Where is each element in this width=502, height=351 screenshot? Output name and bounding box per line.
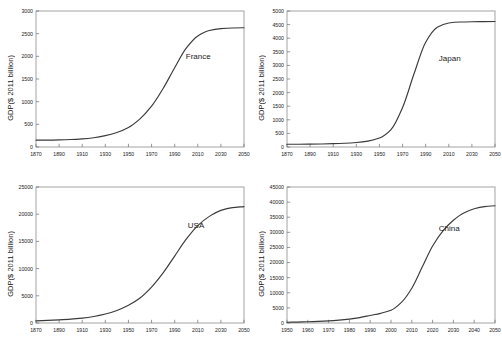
y-tick-label: 500 — [24, 121, 33, 127]
y-tick-label: 20000 — [19, 211, 34, 217]
x-tick-label: 2050 — [489, 151, 501, 157]
x-tick-label: 1950 — [123, 327, 135, 333]
y-tick-label: 30000 — [270, 229, 285, 235]
y-tick-label: 15000 — [270, 275, 285, 281]
y-tick-label: 35000 — [270, 214, 285, 220]
x-tick-label: 2020 — [427, 327, 439, 333]
x-tick-label: 2030 — [448, 327, 460, 333]
y-tick-label: 0 — [30, 144, 33, 150]
plot-frame — [287, 11, 495, 147]
x-tick-label: 1990 — [364, 327, 376, 333]
y-tick-label: 5000 — [272, 8, 284, 14]
x-tick-label: 1870 — [281, 151, 293, 157]
x-tick-label: 2050 — [238, 151, 250, 157]
data-curve — [287, 206, 495, 322]
x-tick-label: 1930 — [100, 151, 112, 157]
y-tick-label: 45000 — [270, 184, 285, 190]
y-tick-label: 1000 — [21, 99, 33, 105]
x-tick-label: 2040 — [468, 327, 480, 333]
x-tick-label: 1890 — [53, 327, 65, 333]
y-tick-label: 25000 — [19, 184, 34, 190]
series-annotation: USA — [188, 221, 205, 230]
x-tick-label: 1910 — [76, 327, 88, 333]
y-tick-label: 1500 — [272, 103, 284, 109]
x-tick-label: 1990 — [420, 151, 432, 157]
plot-frame — [287, 187, 495, 323]
x-tick-label: 1990 — [169, 327, 181, 333]
y-tick-label: 0 — [30, 320, 33, 326]
y-tick-label: 1000 — [272, 117, 284, 123]
y-tick-label: 3000 — [272, 62, 284, 68]
y-tick-label: 4500 — [272, 22, 284, 28]
plot-frame — [36, 11, 244, 147]
x-tick-label: 1970 — [397, 151, 409, 157]
y-tick-label: 2000 — [272, 90, 284, 96]
data-curve — [36, 28, 244, 140]
x-tick-label: 1910 — [327, 151, 339, 157]
y-tick-label: 500 — [275, 130, 284, 136]
x-tick-label: 2010 — [443, 151, 455, 157]
y-tick-label: 40000 — [270, 199, 285, 205]
y-tick-label: 10000 — [19, 266, 34, 272]
x-tick-label: 2010 — [192, 327, 204, 333]
y-tick-label: 0 — [281, 144, 284, 150]
chart-panel-france: GDP($ 2011 billion) 18701890191019301950… — [0, 0, 251, 175]
plot-frame — [36, 187, 244, 323]
chart-svg-china: 1950196019701980199020002010202020302040… — [251, 176, 502, 351]
x-tick-label: 1870 — [30, 327, 42, 333]
y-tick-label: 15000 — [19, 238, 34, 244]
y-tick-label: 10000 — [270, 290, 285, 296]
x-tick-label: 1950 — [123, 151, 135, 157]
x-tick-label: 2010 — [192, 151, 204, 157]
y-tick-label: 20000 — [270, 259, 285, 265]
series-annotation: Japan — [439, 54, 461, 63]
chart-panel-usa: GDP($ 2011 billion) 18701890191019301950… — [0, 176, 251, 351]
x-tick-label: 2050 — [489, 327, 501, 333]
chart-svg-usa: 1870189019101930195019701990201020302050… — [0, 176, 251, 351]
x-tick-label: 1980 — [344, 327, 356, 333]
x-tick-label: 2030 — [466, 151, 478, 157]
x-tick-label: 1930 — [351, 151, 363, 157]
y-tick-label: 3000 — [21, 8, 33, 14]
x-tick-label: 2050 — [238, 327, 250, 333]
data-curve — [36, 207, 244, 321]
x-tick-label: 1930 — [100, 327, 112, 333]
x-tick-label: 1890 — [304, 151, 316, 157]
x-tick-label: 2000 — [385, 327, 397, 333]
x-tick-label: 1970 — [146, 327, 158, 333]
y-tick-label: 3500 — [272, 49, 284, 55]
series-annotation: France — [186, 52, 211, 61]
figure-grid: GDP($ 2011 billion) 18701890191019301950… — [0, 0, 502, 351]
x-tick-label: 1950 — [374, 151, 386, 157]
y-tick-label: 2000 — [21, 53, 33, 59]
chart-svg-japan: 1870189019101930195019701990201020302050… — [251, 0, 502, 175]
x-tick-label: 1890 — [53, 151, 65, 157]
x-tick-label: 1970 — [146, 151, 158, 157]
series-annotation: China — [439, 224, 460, 233]
y-tick-label: 5000 — [21, 293, 33, 299]
x-tick-label: 2010 — [406, 327, 418, 333]
y-tick-label: 2500 — [272, 76, 284, 82]
x-tick-label: 2030 — [215, 327, 227, 333]
x-tick-label: 1970 — [323, 327, 335, 333]
y-tick-label: 0 — [281, 320, 284, 326]
x-tick-label: 1960 — [302, 327, 314, 333]
x-tick-label: 1950 — [281, 327, 293, 333]
x-tick-label: 1910 — [76, 151, 88, 157]
y-tick-label: 25000 — [270, 244, 285, 250]
x-tick-label: 2030 — [215, 151, 227, 157]
data-curve — [287, 21, 495, 144]
y-tick-label: 5000 — [272, 305, 284, 311]
chart-panel-japan: GDP($ 2011 billion) 18701890191019301950… — [251, 0, 502, 175]
x-tick-label: 1990 — [169, 151, 181, 157]
y-tick-label: 2500 — [21, 31, 33, 37]
chart-panel-china: GDP($ 2011 billion) 19501960197019801990… — [251, 176, 502, 351]
x-tick-label: 1870 — [30, 151, 42, 157]
y-tick-label: 1500 — [21, 76, 33, 82]
chart-svg-france: 1870189019101930195019701990201020302050… — [0, 0, 251, 175]
y-tick-label: 4000 — [272, 35, 284, 41]
